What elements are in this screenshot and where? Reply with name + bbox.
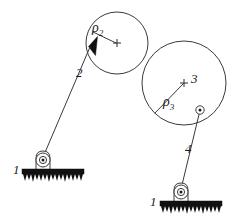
- label-body-3: 3: [191, 72, 198, 85]
- label-rho-3-subscript: 3: [170, 102, 175, 112]
- diagram-canvas: [0, 0, 236, 217]
- ground-hatching-right: [161, 206, 221, 214]
- ground-bar-right: [160, 201, 222, 206]
- ground-support-right: [160, 183, 222, 214]
- label-rho-3: ρ3: [163, 95, 174, 112]
- label-rho-2: ρ2: [92, 21, 103, 38]
- mechanism-diagram: ρ2 ρ3 2 4 3 1 1: [0, 0, 236, 217]
- body-2-center-cross: [113, 39, 121, 47]
- label-link-4: 4: [185, 142, 192, 155]
- link-2-line: [44, 47, 91, 156]
- link-2-attachment-wedge: [89, 37, 98, 56]
- bearing-center-dot-left: [42, 159, 45, 162]
- label-link-2: 2: [76, 66, 83, 79]
- ground-support-left: [22, 151, 84, 182]
- ground-bar-left: [22, 169, 84, 174]
- ground-hatching-left: [23, 174, 83, 182]
- label-ground-left: 1: [13, 163, 20, 176]
- label-rho-2-base: ρ: [92, 20, 99, 35]
- label-rho-3-base: ρ: [163, 94, 170, 109]
- label-ground-right: 1: [150, 195, 157, 208]
- bearing-center-dot-right: [180, 191, 183, 194]
- pin-joint-center-dot: [199, 109, 202, 112]
- label-rho-2-subscript: 2: [99, 28, 104, 38]
